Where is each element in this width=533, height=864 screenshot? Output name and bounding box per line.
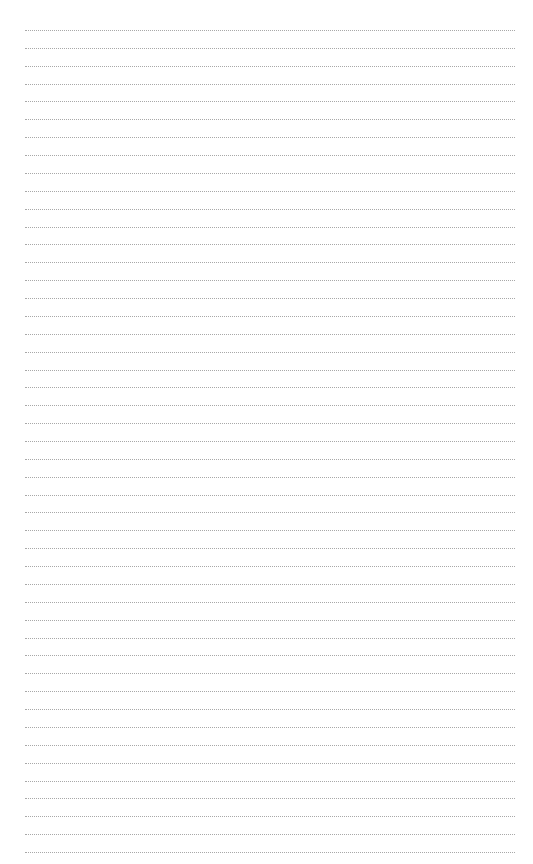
ruled-line [25,101,515,102]
ruled-line [25,495,515,496]
ruled-line [25,84,515,85]
ruled-line [25,191,515,192]
ruled-line [25,441,515,442]
ruled-line [25,781,515,782]
ruled-line [25,798,515,799]
ruled-line [25,584,515,585]
ruled-line [25,244,515,245]
ruled-line [25,620,515,621]
ruled-line [25,548,515,549]
ruled-line [25,745,515,746]
ruled-line [25,262,515,263]
ruled-line [25,137,515,138]
ruled-line [25,119,515,120]
ruled-line [25,370,515,371]
ruled-line [25,334,515,335]
ruled-line [25,709,515,710]
ruled-line [25,691,515,692]
ruled-line [25,48,515,49]
ruled-line [25,227,515,228]
ruled-line [25,423,515,424]
ruled-line [25,387,515,388]
ruled-line [25,834,515,835]
ruled-line [25,727,515,728]
ruled-line [25,763,515,764]
ruled-line [25,352,515,353]
ruled-line [25,655,515,656]
ruled-line [25,316,515,317]
ruled-line [25,673,515,674]
ruled-line [25,638,515,639]
ruled-line [25,459,515,460]
ruled-line [25,512,515,513]
ruled-line [25,405,515,406]
ruled-line [25,298,515,299]
ruled-line [25,852,515,853]
lined-paper-page [0,0,533,864]
ruled-line [25,30,515,31]
ruled-line [25,280,515,281]
ruled-line [25,530,515,531]
ruled-line [25,566,515,567]
ruled-line [25,155,515,156]
ruled-line [25,209,515,210]
ruled-line [25,477,515,478]
ruled-line [25,602,515,603]
ruled-line [25,66,515,67]
ruled-line [25,816,515,817]
ruled-line [25,173,515,174]
